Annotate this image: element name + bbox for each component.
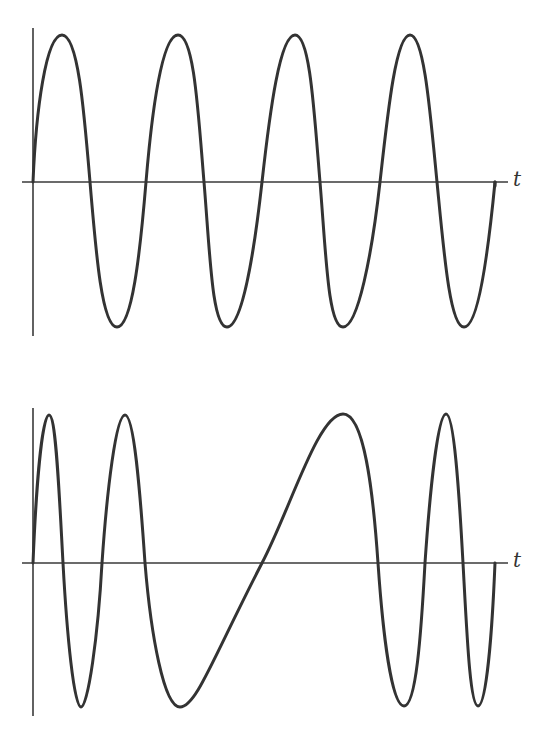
bottom-chart — [22, 408, 508, 716]
chart-canvas — [0, 0, 550, 746]
figure: t t — [0, 0, 550, 746]
bottom-x-axis-label: t — [513, 548, 521, 572]
top-chart — [22, 28, 508, 336]
bottom-modulated-curve — [33, 414, 495, 707]
top-sine-curve — [33, 35, 495, 327]
top-x-axis-label: t — [513, 167, 521, 191]
